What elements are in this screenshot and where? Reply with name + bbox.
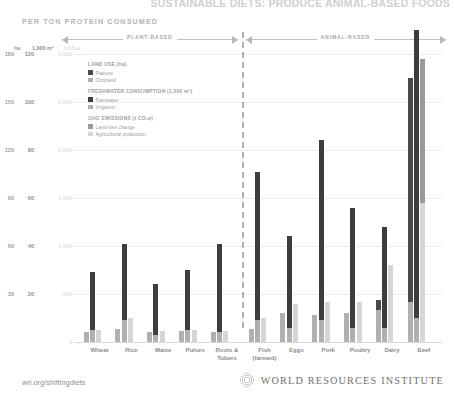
legend-group: GHG EMISSIONS (t CO₂e)Land-use changeAgr… <box>88 116 218 137</box>
bar-ghg <box>261 318 266 342</box>
tick-label-water: 20 <box>28 291 34 297</box>
arrow-head-left-icon <box>246 36 252 44</box>
legend-label: Pasture <box>96 70 114 76</box>
tick-label-ghg: 2,500 <box>58 99 72 105</box>
bar-segment-bottom <box>223 331 228 342</box>
bar-segment-top <box>414 30 419 318</box>
legend-swatch <box>88 132 93 137</box>
legend-swatch <box>88 97 93 102</box>
x-axis-label: Beef <box>400 347 448 355</box>
bar-segment-bottom <box>376 310 381 342</box>
tick-label-water: 60 <box>28 195 34 201</box>
tick-label-ghg: 2,000 <box>58 147 72 153</box>
tick-label-ghg: 1,000 <box>58 243 72 249</box>
bar-ghg <box>160 331 165 342</box>
plant-animal-divider <box>242 32 245 328</box>
bar-ghg <box>96 330 101 342</box>
bar-segment-bottom <box>350 328 355 342</box>
bar-land-use <box>179 331 184 342</box>
bar-ghg <box>388 265 393 342</box>
bar-freshwater <box>90 272 95 342</box>
legend-group-title: GHG EMISSIONS (t CO₂e) <box>88 116 218 121</box>
title-bar: SUSTAINABLE DIETS: PRODUCE ANIMAL-BASED … <box>0 0 454 12</box>
bar-segment-bottom <box>211 332 216 342</box>
footer-url[interactable]: wri.org/shiftingdiets <box>22 378 85 387</box>
tick-label-water: 80 <box>28 147 34 153</box>
tick-label-row: 1801203,000 <box>2 51 74 59</box>
bar-segment-bottom <box>408 302 413 342</box>
bar-cluster <box>376 54 399 342</box>
bar-freshwater <box>185 270 190 342</box>
bar-land-use <box>344 313 349 342</box>
legend-item: Pasture <box>88 70 218 76</box>
bar-segment-top <box>255 172 260 321</box>
bar-land-use <box>280 313 285 342</box>
legend-swatch <box>88 105 93 110</box>
bar-segment-bottom <box>192 330 197 342</box>
bar-segment-bottom <box>388 265 393 342</box>
bar-segment-bottom <box>280 313 285 342</box>
bar-segment-bottom <box>84 332 89 342</box>
bar-segment-bottom <box>420 203 425 342</box>
bar-ghg <box>192 330 197 342</box>
legend-label: Land-use change <box>96 124 135 130</box>
bar-segment-top <box>287 236 292 327</box>
bar-segment-bottom <box>128 318 133 342</box>
bar-freshwater <box>319 140 324 342</box>
bar-segment-bottom <box>344 313 349 342</box>
legend-item: Cropland <box>88 77 218 83</box>
bar-cluster <box>249 54 272 342</box>
bar-freshwater <box>122 244 127 342</box>
arrow-head-right-icon <box>232 36 238 44</box>
tick-label-row: 60401,000 <box>2 243 74 251</box>
bar-segment-bottom <box>90 330 95 342</box>
bar-freshwater <box>287 236 292 342</box>
legend-group: FRESHWATER CONSUMPTION (1,000 m³)Rainwat… <box>88 89 218 110</box>
bar-segment-top <box>185 270 190 330</box>
wri-logo: WORLD RESOURCES INSTITUTE <box>240 373 444 387</box>
bar-segment-bottom <box>319 320 324 342</box>
legend-label: Agricultural production <box>96 131 147 137</box>
arrow-head-right-icon <box>440 36 446 44</box>
bar-land-use <box>312 315 317 342</box>
bar-segment-bottom <box>153 335 158 342</box>
page-title: SUSTAINABLE DIETS: PRODUCE ANIMAL-BASED … <box>150 0 450 9</box>
bar-ghg <box>325 302 330 342</box>
bar-segment-top <box>350 208 355 328</box>
bar-land-use <box>249 329 254 342</box>
bar-freshwater <box>414 30 419 342</box>
bar-segment-bottom <box>255 320 260 342</box>
legend-swatch <box>88 70 93 75</box>
tick-label-land: 90 <box>8 195 14 201</box>
tick-label-row: 90601,500 <box>2 195 74 203</box>
legend-item: Agricultural production <box>88 131 218 137</box>
legend-item: Irrigation <box>88 104 218 110</box>
wri-logo-mark-icon <box>240 373 254 387</box>
legend-swatch <box>88 78 93 83</box>
bar-segment-top <box>420 59 425 203</box>
bar-segment-bottom <box>325 302 330 342</box>
bar-segment-top <box>153 284 158 334</box>
bar-land-use <box>211 332 216 342</box>
bar-ghg <box>293 304 298 342</box>
bar-segment-top <box>382 227 387 328</box>
bar-segment-bottom <box>261 318 266 342</box>
legend-group-title: FRESHWATER CONSUMPTION (1,000 m³) <box>88 89 218 94</box>
tick-label-ghg: 3,000 <box>58 51 72 57</box>
bar-segment-bottom <box>217 332 222 342</box>
legend-label: Irrigation <box>96 104 116 110</box>
tick-label-row: 120802,000 <box>2 147 74 155</box>
bar-cluster <box>312 54 335 342</box>
bar-freshwater <box>217 244 222 342</box>
bar-segment-bottom <box>357 302 362 342</box>
legend-label: Rainwater <box>96 97 119 103</box>
bar-segment-bottom <box>287 328 292 342</box>
tick-label-water: 100 <box>25 99 34 105</box>
group-arrow-label: ANIMAL-BASED <box>317 34 375 40</box>
legend-item: Land-use change <box>88 124 218 130</box>
bar-segment-top <box>408 78 413 302</box>
bar-segment-bottom <box>249 329 254 342</box>
bar-ghg <box>223 331 228 342</box>
bar-ghg <box>420 59 425 342</box>
legend-label: Cropland <box>96 77 117 83</box>
